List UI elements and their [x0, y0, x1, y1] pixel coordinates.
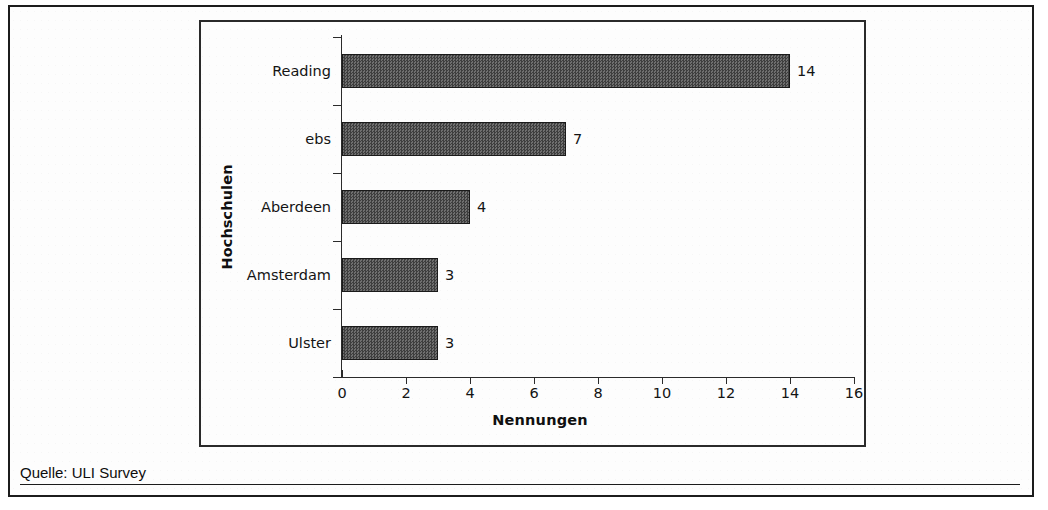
x-axis-tick-label: 12	[701, 385, 751, 401]
x-axis-tick	[470, 377, 471, 384]
x-axis-tick	[598, 377, 599, 384]
bar-reading	[342, 54, 790, 88]
y-axis-tick	[333, 105, 342, 106]
category-label-aberdeen: Aberdeen	[131, 199, 331, 215]
bar-value-label: 3	[445, 335, 454, 351]
bar-row: 4	[342, 190, 530, 224]
bar-ulster	[342, 326, 438, 360]
x-axis-tick	[854, 377, 855, 384]
x-axis-tick	[726, 377, 727, 384]
bar-ebs	[342, 122, 566, 156]
x-axis-tick-label: 2	[381, 385, 431, 401]
bar-row: 3	[342, 326, 498, 360]
bar-row: 7	[342, 122, 626, 156]
category-label-ebs: ebs	[131, 131, 331, 147]
x-axis-tick-label: 6	[509, 385, 559, 401]
x-axis-tick-label: 16	[829, 385, 879, 401]
category-label-wrap: ebs	[120, 122, 331, 156]
x-axis-tick-label: 8	[573, 385, 623, 401]
bar-amsterdam	[342, 258, 438, 292]
bar-value-label: 14	[797, 63, 815, 79]
y-axis-tick	[333, 173, 342, 174]
x-axis-title: Nennungen	[340, 412, 740, 428]
category-label-wrap: Ulster	[120, 326, 331, 360]
bar-aberdeen	[342, 190, 470, 224]
category-label-wrap: Reading	[120, 54, 331, 88]
bar-row: 3	[342, 258, 498, 292]
bar-row: 14	[342, 54, 850, 88]
category-label-wrap: Aberdeen	[120, 190, 331, 224]
y-axis-tick	[333, 241, 342, 242]
category-label-ulster: Ulster	[131, 335, 331, 351]
category-label-wrap: Amsterdam	[120, 258, 331, 292]
bar-value-label: 7	[573, 131, 582, 147]
x-axis-tick-label: 14	[765, 385, 815, 401]
x-axis-tick	[534, 377, 535, 384]
category-label-reading: Reading	[131, 63, 331, 79]
x-axis-tick-label: 10	[637, 385, 687, 401]
source-note: Quelle: ULI Survey	[20, 464, 1020, 485]
category-label-amsterdam: Amsterdam	[131, 267, 331, 283]
figure-outer-frame: Hochschulen 0246810121416 14Reading7ebs4…	[8, 5, 1034, 497]
x-axis-tick	[790, 377, 791, 384]
y-axis-tick	[333, 37, 342, 38]
bar-value-label: 4	[477, 199, 486, 215]
x-axis-tick-label: 0	[317, 385, 367, 401]
x-axis-tick-label: 4	[445, 385, 495, 401]
bar-value-label: 3	[445, 267, 454, 283]
x-axis-tick	[342, 370, 343, 378]
x-axis-tick	[662, 377, 663, 384]
y-axis-tick	[333, 377, 342, 378]
y-axis-tick	[333, 309, 342, 310]
x-axis-tick	[406, 377, 407, 384]
